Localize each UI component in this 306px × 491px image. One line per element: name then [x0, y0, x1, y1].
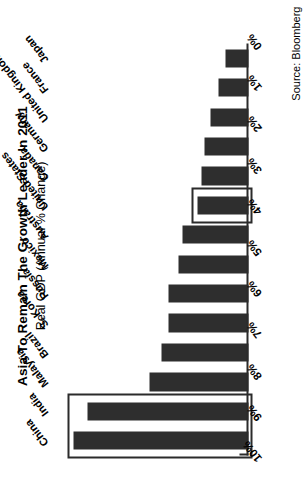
chart-inner: Asia To Remain The Growth Leader In 2011… — [0, 0, 306, 491]
chart-figure: Asia To Remain The Growth Leader In 2011… — [0, 0, 306, 491]
bar-slot — [58, 367, 248, 396]
bar-france — [218, 78, 248, 96]
bar-slot — [58, 131, 248, 160]
bar-brazil — [161, 343, 248, 361]
highlight-box — [67, 393, 252, 458]
category-label-china: China — [22, 417, 50, 448]
bar-mexico — [178, 255, 248, 273]
rotated-canvas: Asia To Remain The Growth Leader In 2011… — [0, 0, 306, 491]
bar-slot — [58, 161, 248, 190]
bar-slot — [58, 73, 248, 102]
bar-japan — [225, 49, 248, 67]
bar-slot — [58, 220, 248, 249]
category-label-india: India — [25, 391, 50, 419]
bar-slot — [58, 249, 248, 278]
value-axis-tick-labels: 0%1%2%3%4%5%6%7%8%9%10% — [250, 43, 290, 455]
bar-slot — [58, 278, 248, 307]
plot-area — [58, 43, 248, 455]
bar-malaysia — [149, 372, 248, 390]
tick-label-10pct: 10% — [240, 438, 264, 464]
bar-s-korea — [168, 313, 248, 331]
bar-united-kingdom — [210, 108, 248, 126]
bar-russia — [168, 284, 248, 302]
highlight-box — [191, 187, 252, 222]
source-note: Source: Bloomberg — [289, 6, 301, 100]
bar-slot — [58, 102, 248, 131]
bar-germany — [204, 137, 248, 155]
category-label-mexico: Mexico — [18, 235, 50, 272]
bar-australia — [182, 225, 249, 243]
bar-slot — [58, 308, 248, 337]
category-axis-labels: ChinaIndiaMalaysiaBrazilS. KoreaRussiaMe… — [0, 43, 52, 455]
bar-canada — [201, 166, 249, 184]
bar-slot — [58, 337, 248, 366]
bar-slot — [58, 43, 248, 72]
